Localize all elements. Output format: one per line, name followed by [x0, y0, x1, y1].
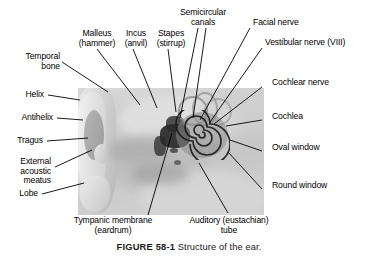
label-auditory-tube-line2: tube: [221, 225, 237, 235]
oval-window-mark: [170, 148, 178, 153]
label-tragus-line1: Tragus: [17, 135, 43, 145]
figure-number: FIGURE 58-1: [117, 242, 176, 252]
label-antihelix-line1: Antihelix: [21, 112, 53, 122]
label-semicircular-canals-line2: canals: [191, 17, 215, 27]
label-tragus: Tragus: [0, 136, 43, 146]
label-vestibular-nerve: Vestibular nerve (VIII): [265, 38, 377, 48]
label-lobe-line1: Lobe: [19, 188, 38, 198]
label-stapes-line2: (stirrup): [157, 38, 186, 48]
label-tympanic-membrane: Tympanic membrane(eardrum): [57, 216, 169, 235]
ear-anatomy-photograph: [78, 88, 264, 215]
leader-helix: [48, 95, 80, 100]
label-helix: Helix: [0, 90, 44, 100]
label-temporal-bone: Temporalbone: [0, 52, 60, 71]
label-oval-window: Oval window: [272, 143, 356, 153]
label-cochlear-nerve-line1: Cochlear nerve: [272, 77, 329, 87]
label-semicircular-canals-line1: Semicircular: [180, 7, 226, 17]
label-lobe: Lobe: [0, 189, 38, 199]
label-tympanic-membrane-line2: (eardrum): [95, 225, 132, 235]
label-cochlea-line1: Cochlea: [272, 111, 303, 121]
label-incus-line2: (anvil): [125, 38, 148, 48]
label-temporal-bone-line2: bone: [41, 61, 60, 71]
label-incus-line1: Incus: [126, 28, 146, 38]
label-tympanic-membrane-line1: Tympanic membrane: [74, 215, 153, 225]
label-vestibular-nerve-line1: Vestibular nerve (VIII): [265, 37, 345, 47]
label-antihelix: Antihelix: [0, 113, 53, 123]
label-stapes-line1: Stapes: [158, 28, 184, 38]
label-auditory-tube-line1: Auditory (eustachian): [189, 215, 268, 225]
label-round-window: Round window: [272, 181, 364, 191]
label-stapes: Stapes(stirrup): [145, 29, 197, 48]
label-temporal-bone-line1: Temporal: [25, 51, 60, 61]
label-semicircular-canals: Semicircularcanals: [166, 8, 240, 27]
label-oval-window-line1: Oval window: [272, 142, 320, 152]
label-eam-line2: acoustic: [20, 166, 51, 176]
label-cochlea: Cochlea: [272, 112, 332, 122]
label-malleus-line1: Malleus: [83, 28, 112, 38]
label-round-window-line1: Round window: [272, 180, 327, 190]
label-facial-nerve-line1: Facial nerve: [253, 17, 299, 27]
label-eam-line3: meatus: [23, 175, 51, 185]
label-eam-line1: External: [20, 156, 51, 166]
label-cochlear-nerve: Cochlear nerve: [272, 78, 376, 88]
round-window-mark: [174, 160, 181, 165]
auditory-eustachian-tube: [132, 164, 188, 184]
figure-caption: FIGURE 58-1 Structure of the ear.: [0, 242, 378, 252]
cochlea-spiral: [174, 110, 230, 160]
label-helix-line1: Helix: [25, 89, 44, 99]
figure-caption-text: Structure of the ear.: [178, 242, 262, 252]
label-external-acoustic-meatus: Externalacousticmeatus: [0, 157, 51, 186]
tympanic-membrane-region: [154, 136, 166, 156]
label-facial-nerve: Facial nerve: [253, 18, 343, 28]
figure-container: Temporalbone Helix Antihelix Tragus Exte…: [0, 0, 378, 265]
label-auditory-tube: Auditory (eustachian)tube: [170, 216, 288, 235]
